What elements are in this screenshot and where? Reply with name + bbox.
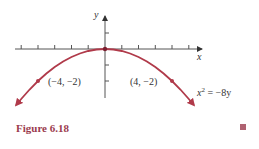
- end-of-example-mark: [240, 124, 246, 130]
- vertex-point: [103, 47, 107, 51]
- equation-label: x2 = −8y: [196, 86, 231, 98]
- point-right: [170, 79, 174, 83]
- y-axis-label: y: [93, 9, 99, 20]
- point-left: [36, 79, 40, 83]
- figure-caption: Figure 6.18: [16, 122, 69, 134]
- point-right-label: (4, −2): [130, 76, 157, 88]
- point-left-label: (−4, −2): [48, 76, 81, 88]
- y-ticks: [105, 33, 109, 81]
- x-axis-label: x: [196, 51, 202, 62]
